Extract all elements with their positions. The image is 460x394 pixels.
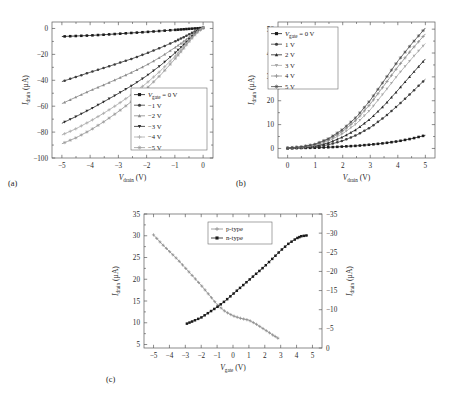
panel-a-chart: −5−4−3−2−100−20−40−60−80−100Vdrain (V)Id… [0,0,230,196]
legend-label: −2 V [148,112,162,119]
x-tick-label: −2 [143,162,151,170]
x-tick-label: −3 [181,352,189,360]
y-tick-label-left: 20 [133,276,141,284]
y-tick-label: −40 [37,77,49,85]
y-tick-label-left: 35 [133,211,141,219]
x-tick-label: 3 [368,162,372,170]
y-tick-label-right: −15 [326,287,338,295]
svg-text:Vdrain (V): Vdrain (V) [343,173,371,183]
legend-label: −5 V [148,144,162,151]
legend-label: 4 V [285,72,295,79]
x-tick-label: −5 [58,162,66,170]
y-tick-label-right: −30 [326,230,338,238]
panel-a-container: −5−4−3−2−100−20−40−60−80−100Vdrain (V)Id… [0,0,230,196]
x-axis-title: Vdrain (V) [119,173,147,183]
panel-c-chart: −5−4−3−2−101234551015202530350−5−10−15−2… [100,196,390,394]
x-tick-label: 4 [295,352,299,360]
y-tick-label-right: −5 [326,325,334,333]
svg-text:Idrain (µA): Idrain (µA) [21,75,31,106]
legend-label: −3 V [148,123,162,130]
x-tick-label: 1 [313,162,317,170]
x-tick-label: −4 [86,162,94,170]
x-tick-label: 0 [286,162,290,170]
x-axis-title: Vgate (V) [220,363,246,373]
panel-b-container: 01234501020304050Vdrain (V)Idrain (µA)Vg… [230,0,460,196]
series-line [154,235,280,339]
x-tick-label: 3 [279,352,283,360]
y-tick-label-left: 15 [133,298,141,306]
y-tick-label-left: 30 [133,232,141,240]
legend-label: −4 V [148,133,162,140]
y-axis-title-left: Idrain (µA) [111,266,121,297]
svg-text:Idrain (µA): Idrain (µA) [345,266,355,297]
x-axis-title: Vdrain (V) [343,173,371,183]
svg-text:Idrain (µA): Idrain (µA) [111,266,121,297]
y-tick-label: −100 [33,155,48,163]
y-tick-label: 0 [44,25,48,33]
svg-text:Idrain (µA): Idrain (µA) [247,75,257,106]
y-tick-label-right: −10 [326,306,338,314]
legend: p-typen-type [208,222,272,244]
y-tick-label-right: −20 [326,268,338,276]
y-axis-title: Idrain (µA) [21,75,31,106]
y-axis-title-right: Idrain (µA) [345,266,355,297]
x-tick-label: −4 [166,352,174,360]
panel-c-container: −5−4−3−2−101234551015202530350−5−10−15−2… [100,196,390,394]
y-tick-label-right: 0 [326,345,330,353]
y-tick-label: −20 [37,51,49,59]
y-tick-label-right: −35 [326,211,338,219]
x-tick-label: −3 [115,162,123,170]
x-tick-label: 5 [311,352,315,360]
data-series [62,27,204,82]
legend-label: −1 V [148,102,162,109]
panel-label: (b) [236,179,246,188]
data-series [62,27,204,38]
x-tick-label: −5 [150,352,158,360]
data-series [152,233,279,339]
panel-label: (c) [106,375,116,384]
x-tick-label: 2 [263,352,267,360]
legend-label: 5 V [285,83,295,90]
svg-text:Vdrain (V): Vdrain (V) [119,173,147,183]
x-tick-label: 2 [341,162,345,170]
y-tick-label: −60 [37,103,49,111]
legend-label: 2 V [285,51,295,58]
legend-label: p-type [226,225,243,232]
y-tick-label: 20 [267,97,275,105]
svg-text:Vgate (V): Vgate (V) [220,363,246,373]
panel-b-chart: 01234501020304050Vdrain (V)Idrain (µA)Vg… [230,0,460,196]
y-axis-title: Idrain (µA) [247,75,257,106]
legend-label: 3 V [285,62,295,69]
series-line [187,235,308,323]
x-tick-label: 0 [231,352,235,360]
data-series [186,234,308,325]
y-tick-label-right: −25 [326,249,338,257]
legend-label: n-type [226,234,243,241]
x-tick-label: −1 [213,352,221,360]
legend: Vgate = 0 V−1 V−2 V−3 V−4 V−5 V [131,88,207,151]
x-tick-label: 0 [201,162,205,170]
panel-label: (a) [8,179,18,188]
y-tick-label-left: 10 [133,319,141,327]
y-tick-label-left: 25 [133,254,141,262]
legend-label: 1 V [285,41,295,48]
x-tick-label: 1 [247,352,251,360]
x-tick-label: −1 [171,162,179,170]
y-tick-label: 0 [270,145,274,153]
x-tick-label: 5 [424,162,428,170]
x-tick-label: −2 [197,352,205,360]
x-tick-label: 4 [396,162,400,170]
series-line [288,79,426,148]
legend: Vgate = 0 V1 V2 V3 V4 V5 V [268,27,338,90]
y-tick-label: 10 [267,121,275,129]
y-tick-label: −80 [37,129,49,137]
y-tick-label-left: 5 [136,341,140,349]
